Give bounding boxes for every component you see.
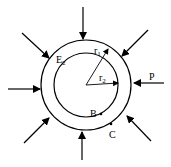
pressure-arrow-top-right	[122, 30, 148, 56]
point-c-dot	[110, 123, 113, 126]
label-c: C	[109, 129, 116, 140]
point-b-dot	[100, 113, 103, 116]
pressure-arrow-bottom-right	[127, 116, 151, 141]
pressure-arrows	[8, 7, 164, 160]
pressure-arrow-top-left	[22, 33, 49, 58]
cylinder-diagram: E2 r1 r2 P B C	[0, 0, 171, 167]
pressure-arrow-bottom-left	[24, 118, 49, 143]
label-r1: r1	[94, 45, 101, 58]
label-b: B	[90, 108, 97, 119]
label-r2: r2	[99, 72, 106, 85]
label-p: P	[149, 71, 155, 82]
